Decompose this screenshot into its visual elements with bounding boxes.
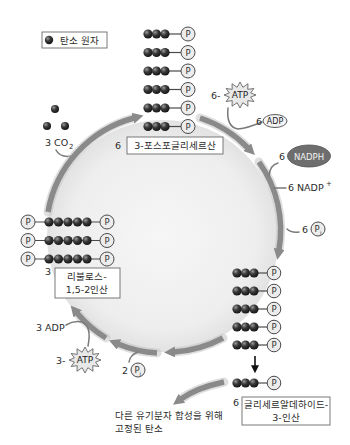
carbon-atom-icon [241, 268, 250, 277]
carbon-atom-icon [45, 36, 53, 44]
adp-output-bottom: 3 ADP [36, 321, 89, 346]
pga-count: 6 [115, 140, 121, 151]
carbon-atom-icon [249, 322, 258, 331]
carbon-atom-icon [241, 304, 250, 313]
atp-bottom-count: 3- [56, 355, 65, 366]
phosphate-label: P [104, 254, 109, 264]
phosphate-label: P [271, 286, 276, 296]
pi-right-connector [287, 229, 299, 232]
carbon-chain: P [143, 46, 195, 60]
carbon-chain-exported: P [232, 376, 280, 390]
carbon-chain: P [143, 83, 195, 97]
carbon-atom-icon [82, 254, 91, 263]
carbon-atom-icon [143, 48, 152, 57]
phosphate-label: P [271, 304, 276, 314]
carbon-atom-icon [152, 48, 161, 57]
carbon-atom-icon [249, 286, 258, 295]
phosphate-label: P [185, 85, 190, 95]
carbon-atom-icon [54, 217, 63, 226]
carbon-atom-icon [63, 254, 72, 263]
carbon-atom-icon [152, 122, 161, 131]
g3p-count: 6 [233, 397, 239, 408]
carbon-atom-icon [54, 254, 63, 263]
g3p-label: 6 글리세르알데하이드- 3-인산 [233, 397, 330, 425]
co2-label: 3 CO [45, 137, 68, 148]
co2-input: 3 CO 2 [43, 105, 73, 156]
phosphate-label: P [25, 217, 30, 227]
carbon-atom-icon [82, 236, 91, 245]
carbon-atom-icon [249, 268, 258, 277]
carbon-atom-icon [152, 29, 161, 38]
nadp-label: NADP [297, 182, 324, 193]
carbon-atom-icon [241, 322, 250, 331]
carbon-atom-icon [160, 85, 169, 94]
phosphate-label: P [104, 217, 109, 227]
atp-top-label: ATP [232, 90, 249, 100]
atp-bottom-label: ATP [77, 355, 94, 365]
rubp-label-line1: 리불로스- [67, 271, 106, 282]
pi-right-label: P [314, 224, 319, 234]
carbon-atom-icon [73, 217, 82, 226]
adp-top-count: 6 [256, 116, 262, 127]
carbon-atom-icon [152, 103, 161, 112]
phosphate-label: P [271, 340, 276, 350]
carbon-atom-icon [241, 378, 250, 387]
adp-top-label: ADP [267, 117, 284, 126]
carbon-chain: P [143, 101, 195, 115]
carbon-chain: P [232, 338, 280, 352]
carbon-atom-icon [249, 378, 258, 387]
adp-output-top: 6 ADP [256, 115, 287, 128]
carbon-atom-icon [152, 66, 161, 75]
carbon-atom-icon [160, 66, 169, 75]
atp-top-count: 6- [211, 90, 220, 101]
nadp-count: 6 [288, 182, 294, 193]
co2-subscript: 2 [69, 143, 73, 151]
carbon-atom-icon [160, 122, 169, 131]
legend: 탄소 원자 [42, 32, 107, 48]
phosphate-label: P [185, 66, 190, 76]
carbon-atom-icon [160, 103, 169, 112]
carbon-atom-icon [249, 304, 258, 313]
carbon-atom-icon [82, 217, 91, 226]
carbon-atom-icon [232, 322, 241, 331]
carbon-atom-icon [143, 103, 152, 112]
legend-label: 탄소 원자 [60, 35, 99, 46]
carbon-atom-icon [232, 340, 241, 349]
phosphate-label: P [271, 322, 276, 332]
carbon-atom-icon [143, 122, 152, 131]
pga-label-text: 3-포스포글리세르산 [134, 140, 215, 151]
carbon-atom-icon [63, 217, 72, 226]
carbon-atom-icon [160, 29, 169, 38]
g3p-label-line2: 3-인산 [272, 412, 299, 423]
phosphate-label: P [271, 378, 276, 388]
atp-input-bottom: 3- ATP [56, 347, 101, 373]
g3p-label-line1: 글리세르알데하이드- [244, 399, 328, 410]
carbon-atom-icon [152, 85, 161, 94]
carbon-atom-icon [232, 378, 241, 387]
carbon-chain: P [143, 64, 195, 78]
rubp-chains: P P P P P [21, 215, 114, 266]
atp-adp-bottom-connector [66, 321, 89, 346]
co2-carbon-icon [61, 122, 69, 130]
rubp-label: 3 리불로스- 1,5-2인산 [45, 266, 120, 298]
carbon-atom-icon [54, 236, 63, 245]
carbon-atom-icon [73, 254, 82, 263]
output-label-line2: 고정된 탄소 [115, 423, 163, 434]
carbon-atom-icon [241, 286, 250, 295]
phosphate-label: P [25, 254, 30, 264]
phosphate-label: P [25, 236, 30, 246]
phosphate-label: P [185, 103, 190, 113]
pga-label: 6 3-포스포글리세르산 [115, 137, 223, 154]
carbon-atom-icon [232, 286, 241, 295]
carbon-atom-icon [160, 48, 169, 57]
pi-bottom-count: 2 [122, 365, 128, 376]
nadph-label: NADPH [294, 152, 324, 162]
pga-chains: P P P P [143, 27, 195, 134]
carbon-atom-icon [44, 254, 53, 263]
nadp-superscript: + [326, 180, 332, 188]
nadph-count: 6 [279, 151, 285, 162]
adp-bottom-label: 3 ADP [36, 322, 65, 333]
carbon-atom-icon [73, 236, 82, 245]
phosphate-label: P [185, 29, 190, 39]
phosphate-label: P [185, 122, 190, 132]
